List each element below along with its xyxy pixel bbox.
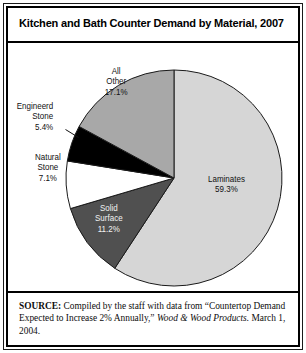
figure-inner-frame: Kitchen and Bath Counter Demand by Mater… [6,6,300,347]
slice-label-laminates: Laminates 59.3% [208,174,245,195]
source-lead: SOURCE: [19,301,61,311]
slice-label-solid-surface: Solid Surface 11.2% [95,203,123,234]
engineered-stone-leader-line [65,129,79,138]
slice-label-engineerd-stone: Engineerd Stone 5.4% [17,101,53,132]
slice-label-all-other: All Other 17.1% [105,66,128,97]
pie-slice-group [66,70,282,286]
source-note: SOURCE: Compiled by the staff with data … [19,300,288,337]
title-block: Kitchen and Bath Counter Demand by Mater… [8,8,298,44]
source-publication: Wood & Wood Products. [157,313,249,323]
chart-title: Kitchen and Bath Counter Demand by Mater… [19,17,284,29]
figure-frame: Kitchen and Bath Counter Demand by Mater… [3,3,303,350]
pie-chart-plot-area: Laminates 59.3% All Other 17.1% Engineer… [8,41,298,291]
source-divider [8,291,298,293]
slice-label-natural-stone: Natural Stone 7.1% [35,152,61,183]
